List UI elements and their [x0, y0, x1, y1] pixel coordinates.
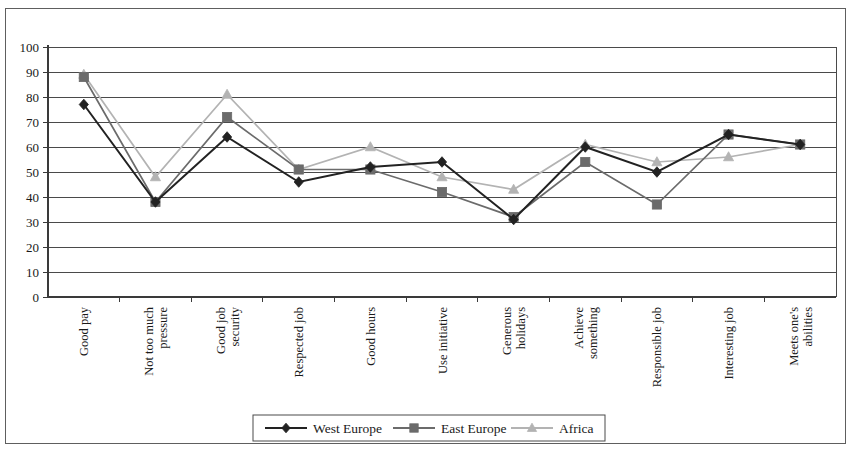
- y-tick-label: 20: [26, 240, 39, 255]
- x-tick-label-line: Respected job: [292, 307, 306, 377]
- line-chart: 0102030405060708090100 Good payNot too m…: [6, 9, 847, 445]
- y-tick-label: 80: [26, 90, 39, 105]
- x-tick-label-line: something: [586, 306, 600, 359]
- y-axis-tick-labels: 0102030405060708090100: [20, 40, 40, 305]
- x-tick-label: Generousholidays: [500, 307, 528, 355]
- x-tick-label-line: holidays: [514, 307, 528, 349]
- x-tick-label: Use initiative: [436, 307, 450, 374]
- x-axis-tick-labels: Good payNot too muchpressureGood jobsecu…: [77, 306, 814, 387]
- chart-legend: West EuropeEast EuropeAfrica: [253, 415, 605, 441]
- legend-label: Africa: [559, 421, 593, 436]
- x-tick-label-line: Not too much: [142, 306, 156, 375]
- series-africa: [79, 69, 805, 193]
- y-tick-label: 70: [26, 115, 39, 130]
- x-tick-label-line: Good hours: [364, 307, 378, 366]
- x-tick-label: Achievesomething: [572, 306, 600, 359]
- x-tick-label-line: security: [228, 306, 242, 346]
- x-axis-ticks: [120, 297, 765, 302]
- data-point-marker-square: [652, 200, 661, 209]
- x-tick-label-line: Interesting job: [722, 307, 736, 380]
- data-point-marker-square: [410, 424, 418, 432]
- x-tick-label-line: Good job: [214, 307, 228, 354]
- legend-label: East Europe: [441, 421, 507, 436]
- legend-label: West Europe: [313, 421, 382, 436]
- data-point-marker-diamond: [294, 177, 303, 188]
- x-tick-label-line: Meets one's: [787, 307, 801, 366]
- data-point-marker-diamond: [652, 167, 661, 178]
- x-tick-label-line: Responsible job: [650, 307, 664, 387]
- data-point-marker-square: [222, 112, 231, 121]
- x-tick-label-line: Good pay: [77, 306, 91, 356]
- y-tick-label: 30: [26, 215, 39, 230]
- x-tick-label: Meets one'sabilities: [787, 307, 815, 366]
- x-tick-label-line: Use initiative: [436, 307, 450, 374]
- y-tick-label: 100: [20, 40, 40, 55]
- x-tick-label: Good pay: [77, 306, 91, 356]
- x-tick-label: Not too muchpressure: [142, 306, 170, 375]
- y-tick-label: 90: [26, 65, 39, 80]
- x-tick-label-line: Achieve: [572, 307, 586, 349]
- data-point-marker-square: [294, 165, 303, 174]
- y-tick-label: 10: [26, 265, 39, 280]
- y-tick-label: 50: [26, 165, 39, 180]
- x-tick-label: Interesting job: [722, 307, 736, 380]
- chart-figure: 0102030405060708090100 Good payNot too m…: [5, 8, 846, 444]
- y-tick-label: 40: [26, 190, 39, 205]
- x-tick-label: Good jobsecurity: [214, 306, 242, 354]
- data-point-marker-triangle: [365, 142, 375, 151]
- data-point-marker-triangle: [222, 89, 232, 98]
- data-point-marker-square: [437, 187, 446, 196]
- x-tick-label-line: pressure: [156, 307, 170, 349]
- data-point-marker-square: [79, 72, 88, 81]
- x-tick-label: Respected job: [292, 307, 306, 377]
- x-tick-label: Good hours: [364, 307, 378, 366]
- y-tick-label: 0: [33, 290, 40, 305]
- y-axis-ticks: [43, 47, 48, 297]
- x-tick-label-line: Generous: [500, 307, 514, 355]
- data-point-marker-square: [581, 157, 590, 166]
- y-tick-label: 60: [26, 140, 39, 155]
- x-tick-label: Responsible job: [650, 307, 664, 387]
- x-tick-label-line: abilities: [801, 307, 815, 347]
